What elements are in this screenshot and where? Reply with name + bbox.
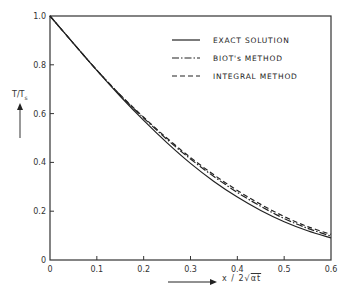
x-tick-label: 0.6 — [325, 265, 338, 274]
series-line-biot-s-method — [50, 16, 331, 236]
y-tick-label: 0.8 — [33, 61, 46, 70]
chart: 00.10.20.30.40.50.600.20.40.60.81.0EXACT… — [0, 0, 346, 294]
y-tick-label: 0.4 — [33, 158, 46, 167]
x-axis-label-radicand: αt — [251, 274, 261, 283]
x-tick-label: 0 — [47, 265, 52, 274]
y-axis-arrowhead-icon — [17, 103, 23, 110]
y-axis-label: T/Ts — [12, 90, 28, 101]
legend-label: EXACT SOLUTION — [213, 36, 290, 45]
y-axis-label-subscript: s — [24, 94, 27, 101]
y-axis-label-text: T/T — [12, 90, 24, 99]
x-tick-label: 0.2 — [137, 265, 150, 274]
legend-label: BIOT's METHOD — [213, 54, 283, 63]
series-line-integral-method — [50, 16, 331, 234]
x-tick-label: 0.3 — [184, 265, 197, 274]
x-tick-label: 0.5 — [278, 265, 291, 274]
series-line-exact-solution — [50, 16, 331, 238]
y-tick-label: 0.2 — [33, 207, 46, 216]
x-tick-label: 0.4 — [231, 265, 244, 274]
x-tick-label: 0.1 — [90, 265, 103, 274]
legend-label: INTEGRAL METHOD — [213, 72, 298, 81]
x-axis-label-text: x / 2 — [222, 274, 245, 283]
x-axis-label: x / 2√αt — [222, 274, 261, 283]
x-axis-arrowhead-icon — [210, 279, 217, 285]
y-tick-label: 0 — [41, 256, 46, 265]
y-tick-label: 0.6 — [33, 110, 46, 119]
y-tick-label: 1.0 — [33, 12, 46, 21]
